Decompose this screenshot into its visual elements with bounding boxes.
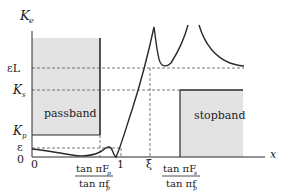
stopband-region xyxy=(180,90,243,157)
passband-region xyxy=(32,38,100,135)
x-zero-label: 0 xyxy=(31,158,38,171)
eps-L-label: εL xyxy=(7,62,21,75)
stopband-edge-label: tan πF s tan πf p xyxy=(162,163,200,192)
passband-label: passband xyxy=(44,107,97,120)
Ks-label-sub: s xyxy=(22,91,26,99)
xi-label: ξ xyxy=(146,158,152,171)
stopband-edge-numerator-sub: s xyxy=(194,169,197,176)
stopband-edge-denominator-sub: p xyxy=(193,184,197,192)
stopband-edge-numerator: tan πF xyxy=(163,163,196,174)
one-label: 1 xyxy=(117,158,124,171)
filter-diagram: K e εL K s K p ε 0 0 tan πF p tan πf p 1… xyxy=(0,0,293,196)
Kp-label-sub: p xyxy=(22,132,27,140)
x-axis-label: x xyxy=(270,148,277,161)
y-axis-label-sub: e xyxy=(29,16,34,25)
stopband-label: stopband xyxy=(194,109,245,122)
response-curve-tail xyxy=(199,25,244,66)
y-zero-label: 0 xyxy=(17,153,24,166)
passband-edge-numerator: tan πF xyxy=(76,163,109,174)
passband-edge-label: tan πF p tan πf p xyxy=(75,163,113,192)
passband-edge-denominator-sub: p xyxy=(106,184,110,192)
